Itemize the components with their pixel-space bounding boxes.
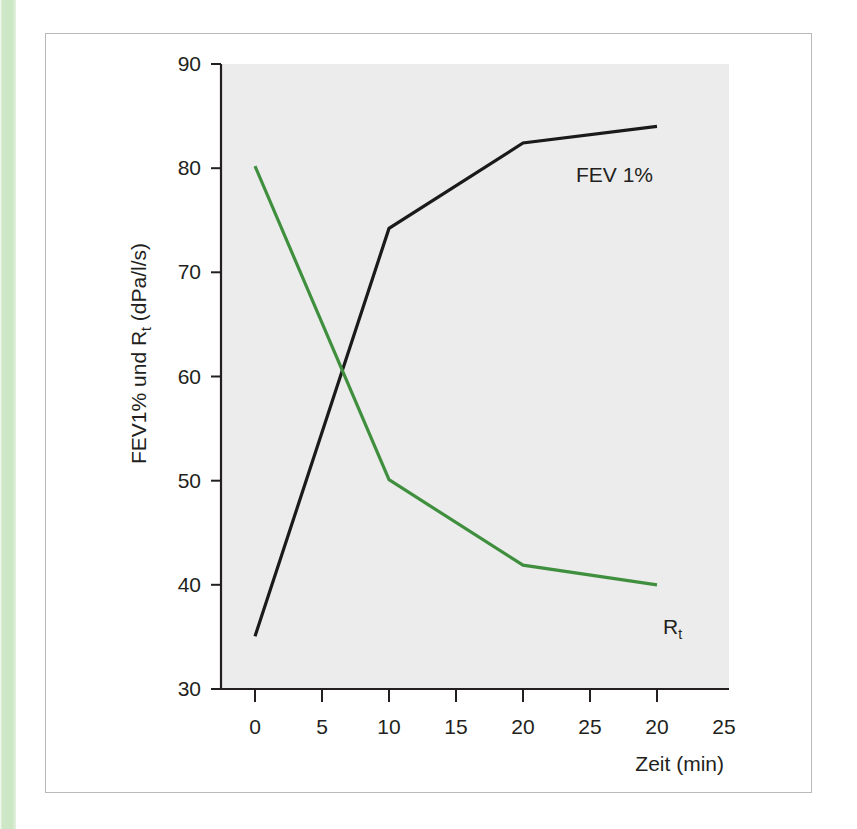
line-chart: 30 40 50 60 70 80 90 0 5 — [46, 34, 813, 794]
x-tick-label: 15 — [444, 715, 467, 738]
x-tick-label: 5 — [316, 715, 328, 738]
series-label-rt-subscript: t — [678, 626, 682, 642]
y-tick-label: 50 — [178, 469, 201, 492]
y-axis-title: FEV1% und Rt (dPa/l/s) — [127, 243, 154, 464]
figure-card: 30 40 50 60 70 80 90 0 5 — [45, 33, 812, 793]
x-tick-label: 0 — [249, 715, 261, 738]
svg-text:FEV1% und Rt (dPa/l/s): FEV1% und Rt (dPa/l/s) — [127, 243, 154, 464]
y-tick-label: 40 — [178, 573, 201, 596]
y-axis-tick-labels: 30 40 50 60 70 80 90 — [178, 52, 201, 700]
x-axis-tick-labels: 0 5 10 15 20 25 20 25 — [249, 715, 736, 738]
decorative-left-strip — [0, 0, 16, 829]
y-axis-title-main: FEV1% und R — [127, 331, 150, 464]
y-axis-title-unit: (dPa/l/s) — [127, 243, 150, 327]
y-tick-label: 90 — [178, 52, 201, 75]
x-tick-label: 25 — [578, 715, 601, 738]
y-tick-label: 30 — [178, 677, 201, 700]
y-tick-label: 80 — [178, 156, 201, 179]
decorative-left-strip-gradient — [0, 0, 16, 829]
y-axis-ticks — [211, 64, 221, 689]
plot-area-background — [221, 64, 729, 689]
y-tick-label: 60 — [178, 365, 201, 388]
x-tick-label: 10 — [377, 715, 400, 738]
x-axis-title: Zeit (min) — [635, 752, 724, 775]
x-axis-ticks — [255, 689, 657, 702]
x-tick-label: 20 — [645, 715, 668, 738]
x-tick-label: 25 — [712, 715, 735, 738]
series-label-rt-main: R — [663, 615, 678, 638]
x-tick-label: 20 — [511, 715, 534, 738]
series-label-fev1: FEV 1% — [576, 163, 653, 186]
y-tick-label: 70 — [178, 260, 201, 283]
